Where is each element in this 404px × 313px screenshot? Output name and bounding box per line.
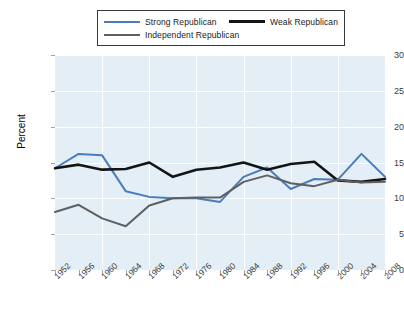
y-tick-label: 25 <box>358 91 404 101</box>
gridline-vertical <box>149 55 150 270</box>
gridline-horizontal <box>55 163 385 164</box>
legend-label-strong-republican: Strong Republican <box>145 17 217 27</box>
y-tick-mark <box>51 127 55 128</box>
y-tick-label: 5 <box>358 234 404 244</box>
legend-label-independent-republican: Independent Republican <box>145 30 239 40</box>
legend-row: Independent Republican <box>104 28 338 41</box>
legend-entry-independent-republican: Independent Republican <box>104 30 232 40</box>
y-tick-mark <box>51 198 55 199</box>
legend-swatch-strong-republican <box>104 21 140 23</box>
y-tick-label: 15 <box>358 163 404 173</box>
y-tick-mark <box>51 163 55 164</box>
gridline-vertical <box>196 55 197 270</box>
gridline-horizontal <box>55 234 385 235</box>
legend-row: Strong Republican Weak Republican <box>104 15 338 28</box>
gridline-vertical <box>102 55 103 270</box>
legend-entry-strong-republican: Strong Republican <box>104 17 229 27</box>
gridline-vertical <box>338 55 339 270</box>
gridline-horizontal <box>55 198 385 199</box>
gridline-vertical <box>291 55 292 270</box>
gridline-horizontal <box>55 91 385 92</box>
legend-entry-weak-republican: Weak Republican <box>229 17 338 27</box>
y-tick-label: 10 <box>358 198 404 208</box>
chart-legend: Strong Republican Weak Republican Indepe… <box>97 10 345 46</box>
y-tick-mark <box>51 234 55 235</box>
y-tick-mark <box>51 55 55 56</box>
y-tick-mark <box>51 91 55 92</box>
y-axis-title: Percent <box>16 92 27 172</box>
legend-label-weak-republican: Weak Republican <box>270 17 338 27</box>
legend-swatch-independent-republican <box>104 34 140 36</box>
chart-figure: Strong Republican Weak Republican Indepe… <box>0 0 404 313</box>
legend-swatch-weak-republican <box>229 20 265 23</box>
gridline-horizontal <box>55 55 385 56</box>
gridline-horizontal <box>55 127 385 128</box>
y-tick-label: 30 <box>358 55 404 65</box>
gridline-vertical <box>244 55 245 270</box>
y-tick-label: 20 <box>358 127 404 137</box>
